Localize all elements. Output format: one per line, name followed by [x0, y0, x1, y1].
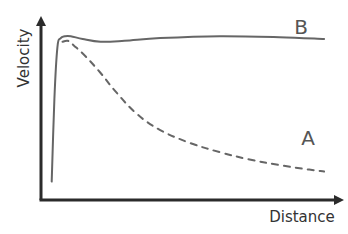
axes	[40, 20, 341, 200]
series-layer	[52, 36, 324, 182]
velocity-distance-chart: Velocity Distance B A	[0, 0, 348, 234]
x-axis-label: Distance	[269, 208, 335, 226]
series-label-b: B	[294, 15, 308, 39]
series-line-a	[63, 41, 325, 172]
series-line-b	[52, 36, 324, 182]
series-label-a: A	[301, 126, 315, 150]
y-axis-label: Velocity	[15, 28, 33, 87]
